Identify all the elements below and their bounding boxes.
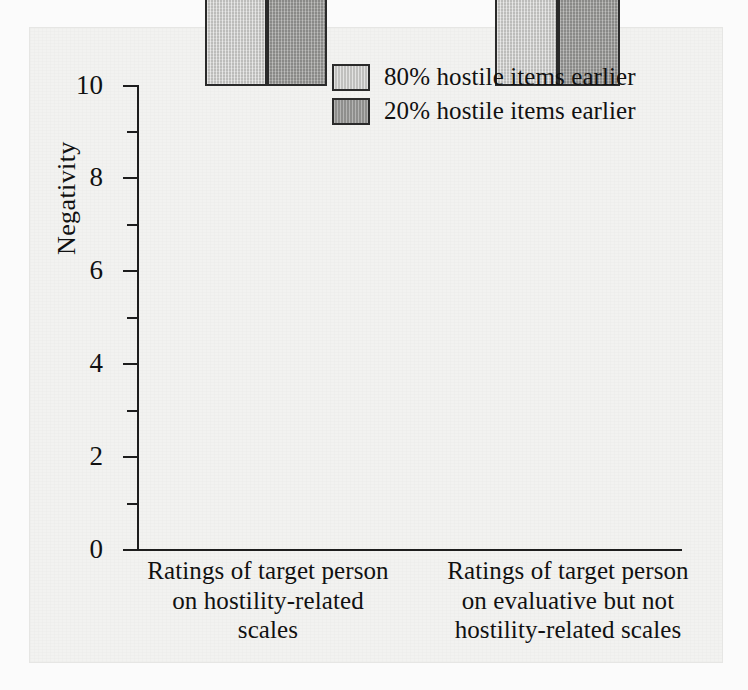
x-category-label-0-line-3: scales (118, 615, 418, 645)
x-category-label-0: Ratings of target person on hostility-re… (118, 556, 418, 645)
y-minor-tick-7 (127, 224, 137, 226)
y-tick-label-10: 10 (76, 72, 103, 99)
x-category-label-1-line-1: Ratings of target person (418, 556, 718, 586)
x-category-label-1: Ratings of target person on evaluative b… (418, 556, 718, 645)
x-category-label-1-line-2: on evaluative but not (418, 586, 718, 616)
plot-area: 0 2 4 6 8 10 (137, 85, 682, 550)
y-minor-tick-1 (127, 503, 137, 505)
y-tick-label-8: 8 (90, 164, 104, 191)
x-category-label-1-line-3: hostility-related scales (418, 615, 718, 645)
y-axis-line (137, 85, 139, 551)
x-category-label-0-line-1: Ratings of target person (118, 556, 418, 586)
y-minor-tick-9 (127, 131, 137, 133)
x-axis-line (137, 549, 682, 551)
legend-swatch-icon-0 (332, 64, 370, 91)
y-tick-label-2: 2 (90, 443, 104, 470)
y-tick-8: 8 (123, 177, 137, 179)
legend-label-0: 80% hostile items earlier (384, 63, 636, 91)
legend-swatch-icon-1 (332, 98, 370, 125)
y-tick-label-4: 4 (90, 350, 104, 377)
legend: 80% hostile items earlier 20% hostile it… (332, 60, 636, 128)
x-category-label-0-line-2: on hostility-related (118, 586, 418, 616)
y-axis-title: Negativity (52, 141, 82, 255)
y-tick-0: 0 (123, 549, 137, 551)
legend-item-1[interactable]: 20% hostile items earlier (332, 94, 636, 128)
y-tick-label-0: 0 (90, 536, 104, 563)
y-tick-6: 6 (123, 270, 137, 272)
y-minor-tick-5 (127, 317, 137, 319)
y-minor-tick-3 (127, 410, 137, 412)
y-tick-4: 4 (123, 363, 137, 365)
y-tick-2: 2 (123, 456, 137, 458)
bar-g1-s1[interactable] (205, 0, 267, 86)
y-tick-10: 10 (123, 85, 137, 87)
y-tick-label-6: 6 (90, 257, 104, 284)
legend-item-0[interactable]: 80% hostile items earlier (332, 60, 636, 94)
legend-label-1: 20% hostile items earlier (384, 97, 636, 125)
bar-g1-s2[interactable] (267, 0, 327, 86)
figure-container: Negativity 0 2 4 6 8 10 (0, 0, 748, 690)
